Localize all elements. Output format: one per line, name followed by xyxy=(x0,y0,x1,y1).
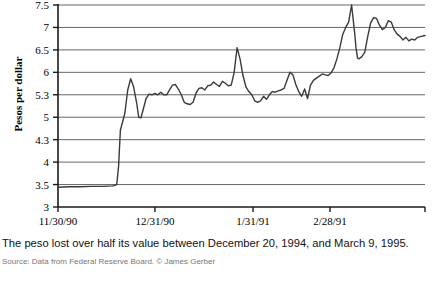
x-axis-tick-label: 12/31/90 xyxy=(135,215,175,227)
y-axis-tick-label: 3 xyxy=(44,201,50,213)
y-axis-tick-label: 4.3 xyxy=(35,134,49,146)
x-axis-tick-label: 11/30/90 xyxy=(39,215,78,227)
y-axis-tick-label: 5 xyxy=(44,111,50,123)
y-axis-tick-label: 5.3 xyxy=(35,89,49,101)
x-axis-tick-label: 2/28/91 xyxy=(313,215,347,227)
figure-caption: The peso lost over half its value betwee… xyxy=(2,236,437,251)
chart-area: Pesos per dollar 33.544.355.366.577.5 11… xyxy=(0,0,439,232)
x-axis-tick-label: 1/31/91 xyxy=(236,215,270,227)
y-axis-tick-label: 6.5 xyxy=(35,44,49,56)
figure-container: Pesos per dollar 33.544.355.366.577.5 11… xyxy=(0,0,439,282)
figure-source: Source: Data from Federal Reserve Board.… xyxy=(2,257,437,266)
y-axis-tick-label: 7.5 xyxy=(35,0,49,11)
x-axis-ticks-group: 11/30/9012/31/901/31/912/28/91 xyxy=(39,207,425,227)
y-axis-title: Pesos per dollar xyxy=(12,34,24,154)
y-axis-tick-label: 3.5 xyxy=(35,179,49,191)
caption-block: The peso lost over half its value betwee… xyxy=(2,236,437,266)
line-chart: 33.544.355.366.577.5 11/30/9012/31/901/3… xyxy=(0,0,439,232)
y-axis-ticks-group: 33.544.355.366.577.5 xyxy=(35,0,58,213)
data-series-line xyxy=(58,5,425,187)
y-axis-tick-label: 7 xyxy=(44,21,50,33)
y-axis-tick-label: 4 xyxy=(44,156,50,168)
y-axis-tick-label: 6 xyxy=(44,66,50,78)
gridlines-group xyxy=(58,5,425,185)
